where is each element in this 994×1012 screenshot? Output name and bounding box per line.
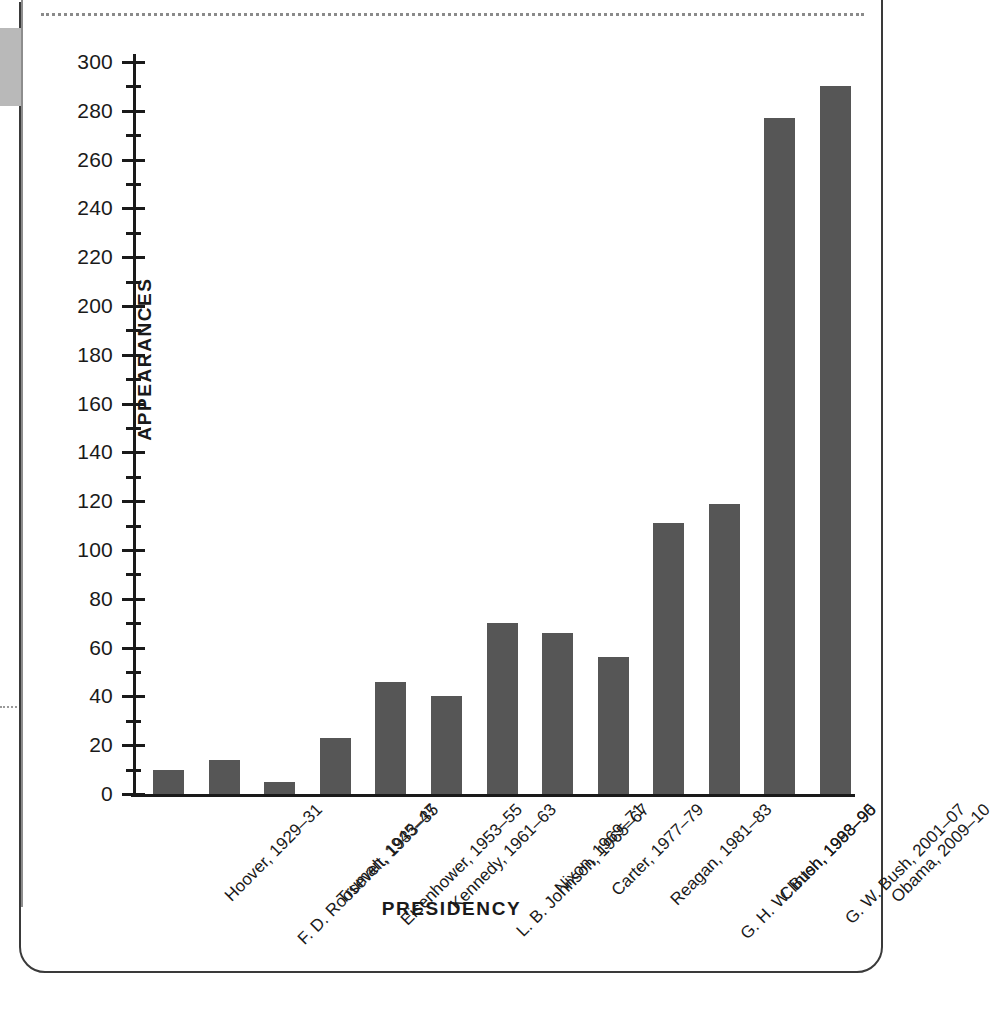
y-axis-major-tick: [122, 598, 145, 601]
bar: [320, 738, 351, 794]
y-axis-major-tick: [122, 207, 145, 210]
y-axis-tick-label: 180: [33, 344, 113, 365]
y-axis-minor-tick: [126, 573, 141, 576]
y-axis-tick-label: 40: [33, 685, 113, 706]
y-axis-major-tick: [122, 256, 145, 259]
y-axis-minor-tick: [126, 134, 141, 137]
bar: [542, 633, 573, 794]
y-axis-tick-label: 300: [33, 51, 113, 72]
y-axis-minor-tick: [126, 476, 141, 479]
y-axis-tick-label: 280: [33, 100, 113, 121]
y-axis-tick-label: 260: [33, 149, 113, 170]
y-axis-major-tick: [122, 159, 145, 162]
x-axis-tick-label: Clinton, 1993–95: [776, 800, 880, 904]
y-axis-tick-label: 80: [33, 588, 113, 609]
y-axis-tick-label: 240: [33, 197, 113, 218]
bar: [820, 86, 851, 794]
y-axis-minor-tick: [126, 769, 141, 772]
y-axis-tick-label: 100: [33, 539, 113, 560]
y-axis-major-tick: [122, 793, 145, 796]
y-axis-tick-label: 20: [33, 734, 113, 755]
x-axis-title: PRESIDENCY: [0, 898, 903, 920]
bar: [153, 770, 184, 794]
plot-area: 0204060801001201401601802002202402602803…: [133, 62, 855, 794]
y-axis-minor-tick: [126, 622, 141, 625]
y-axis-tick-label: 160: [33, 393, 113, 414]
y-axis-tick-label: 140: [33, 441, 113, 462]
y-axis-tick-label: 120: [33, 490, 113, 511]
y-axis-major-tick: [122, 451, 145, 454]
y-axis-major-tick: [122, 110, 145, 113]
y-axis-minor-tick: [126, 232, 141, 235]
y-axis-minor-tick: [126, 525, 141, 528]
bar: [487, 623, 518, 794]
bar: [209, 760, 240, 794]
y-axis-minor-tick: [126, 85, 141, 88]
y-axis-tick-label: 60: [33, 637, 113, 658]
bar: [764, 118, 795, 794]
y-axis-major-tick: [122, 549, 145, 552]
y-axis-tick-label: 200: [33, 295, 113, 316]
bar: [653, 523, 684, 794]
y-axis-minor-tick: [126, 183, 141, 186]
y-axis-minor-tick: [126, 671, 141, 674]
y-axis-tick-labels: 0204060801001201401601802002202402602803…: [27, 62, 113, 794]
y-axis-tick-label: 220: [33, 246, 113, 267]
bar: [598, 657, 629, 794]
y-axis-minor-tick: [126, 720, 141, 723]
y-axis-major-tick: [122, 744, 145, 747]
bar: [709, 504, 740, 794]
bar: [375, 682, 406, 794]
y-axis-major-tick: [122, 61, 145, 64]
bar: [264, 782, 295, 794]
y-axis-major-tick: [122, 647, 145, 650]
y-axis-major-tick: [122, 695, 145, 698]
y-axis-major-tick: [122, 500, 145, 503]
bar: [431, 696, 462, 794]
y-axis-tick-label: 0: [33, 783, 113, 804]
x-axis-line: [131, 794, 855, 797]
y-axis-title: APPEARANCES: [134, 277, 156, 440]
x-axis-tick-label: Hoover, 1929–31: [221, 800, 326, 905]
